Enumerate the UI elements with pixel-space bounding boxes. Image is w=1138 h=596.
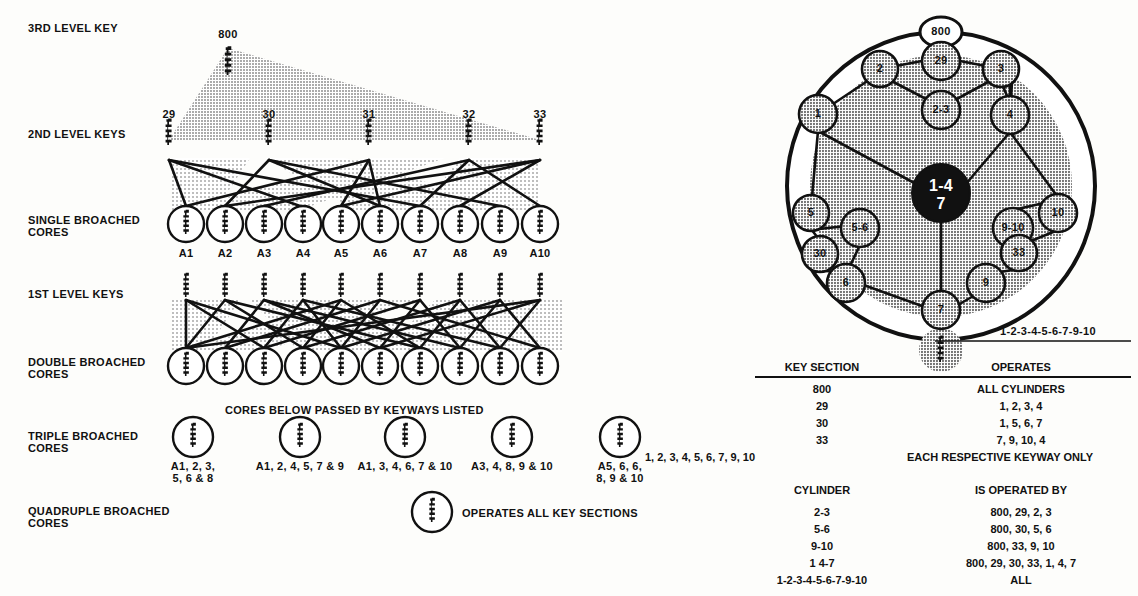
table-cell-operated-by-0: 800, 29, 2, 3 [990, 506, 1051, 518]
lock-label-5-6: 5-6 [852, 221, 869, 233]
lock-label-1: 1 [815, 107, 821, 119]
row-label-triple-broached-cores: TRIPLE BROACHED CORES [28, 430, 138, 455]
lock-label-800: 800 [931, 25, 950, 37]
triple-core-label-4: A3, 4, 8, 9 & 10 [471, 460, 553, 472]
core-label-a9: A9 [493, 247, 508, 259]
row-label-2nd-level-keys: 2ND LEVEL KEYS [28, 128, 126, 140]
table-row: 9-10 [811, 540, 833, 552]
table-cell-operated-by-4: ALL [1010, 574, 1031, 586]
core-label-a7: A7 [413, 247, 428, 259]
lock-label-7: 7 [938, 303, 944, 315]
lock-side-note: 1-2-3-4-5-6-7-9-10 [1000, 325, 1096, 337]
row-label-1st-level-keys: 1ST LEVEL KEYS [28, 288, 124, 300]
table-row: 5-6 [814, 523, 830, 535]
lock-label-2: 2 [877, 62, 883, 74]
core-label-a6: A6 [373, 247, 388, 259]
triple-core-label-5: A5, 6, 6, 8, 9 & 10 [596, 460, 643, 485]
diagram-canvas: 3RD LEVEL KEY 2ND LEVEL KEYS SINGLE BROA… [0, 0, 1138, 596]
core-label-a2: A2 [218, 247, 233, 259]
key-label-32: 32 [463, 108, 476, 120]
table-cell-operated-by-3: 800, 29, 30, 33, 1, 4, 7 [966, 557, 1076, 569]
core-label-a5: A5 [334, 247, 349, 259]
key-section-header-left: KEY SECTION [785, 361, 859, 373]
key-label-33: 33 [534, 108, 547, 120]
table-row: 30 [816, 417, 828, 429]
lock-label-3: 3 [998, 62, 1004, 74]
cylinder-header-left: CYLINDER [794, 484, 850, 496]
quadruple-core-note: OPERATES ALL KEY SECTIONS [462, 507, 638, 519]
key-glyph-800 [225, 46, 232, 75]
table-cell-operated-by-1: 800, 30, 5, 6 [990, 523, 1051, 535]
lock-label-9-10: 9-10 [1001, 221, 1024, 233]
table-cell-operates-2: 1, 5, 6, 7 [1000, 417, 1043, 429]
table-cell-operates-0: ALL CYLINDERS [977, 383, 1065, 395]
table-cell-operates-4: EACH RESPECTIVE KEYWAY ONLY [907, 451, 1093, 463]
lock-center-label-top: 1-4 [929, 177, 953, 195]
table-row: 1-2-3-4-5-6-7-9-10 [777, 574, 867, 586]
core-label-a8: A8 [453, 247, 468, 259]
key-label-30: 30 [263, 108, 276, 120]
table-cell-operated-by-2: 800, 33, 9, 10 [987, 540, 1054, 552]
core-label-a10: A10 [529, 247, 550, 259]
lock-label-6: 6 [843, 276, 849, 288]
row-label-3rd-level-key: 3RD LEVEL KEY [28, 22, 118, 34]
row-label-quadruple-broached-cores: QUADRUPLE BROACHED CORES [28, 505, 170, 530]
table-cell-operates-3: 7, 9, 10, 4 [997, 434, 1046, 446]
table-row: 29 [816, 400, 828, 412]
lock-label-29: 29 [935, 54, 948, 66]
bottom-key-glyph [938, 335, 944, 362]
cylinder-header-right: IS OPERATED BY [975, 484, 1067, 496]
cores-below-note: CORES BELOW PASSED BY KEYWAYS LISTED [225, 404, 484, 416]
row-label-double-broached-cores: DOUBLE BROACHED CORES [28, 356, 146, 381]
triple-core-label-3: A1, 3, 4, 6, 7 & 10 [358, 460, 453, 472]
key-label-800: 800 [218, 28, 237, 40]
table-row: 800 [813, 383, 831, 395]
triple-core-label-2: A1, 2, 4, 5, 7 & 9 [256, 460, 345, 472]
triple-core-label-1: A1, 2, 3, 5, 6 & 8 [171, 460, 215, 485]
lock-label-4: 4 [1007, 108, 1013, 120]
lock-label-9: 9 [983, 276, 989, 288]
core-label-a1: A1 [179, 247, 194, 259]
core-label-a3: A3 [257, 247, 272, 259]
key-label-29: 29 [163, 108, 176, 120]
table-row: 1 4-7 [809, 557, 834, 569]
lock-label-10: 10 [1052, 206, 1065, 218]
lock-label-5: 5 [808, 206, 814, 218]
table-cell-operates-1: 1, 2, 3, 4 [1000, 400, 1043, 412]
lock-label-33: 33 [1013, 246, 1026, 258]
lock-label-30: 30 [814, 247, 827, 259]
key-section-header-right: OPERATES [991, 361, 1051, 373]
row-label-single-broached-cores: SINGLE BROACHED CORES [28, 214, 140, 239]
key-label-31: 31 [363, 108, 376, 120]
table-row: 33 [816, 434, 828, 446]
lock-label-2-3: 2-3 [933, 103, 950, 115]
lock-center-label-bottom: 7 [936, 195, 945, 213]
core-label-a4: A4 [296, 247, 311, 259]
table-row: 2-3 [814, 506, 830, 518]
table-row: 1, 2, 3, 4, 5, 6, 7, 9, 10 [645, 451, 755, 463]
